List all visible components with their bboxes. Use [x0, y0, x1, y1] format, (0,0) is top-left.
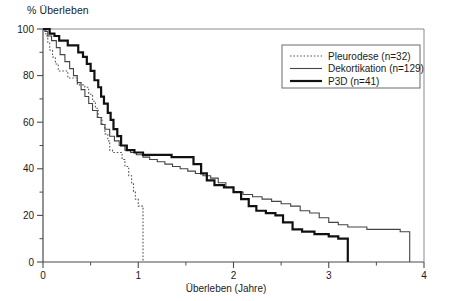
y-tick-label: 100: [17, 24, 34, 35]
y-tick-label: 0: [28, 257, 34, 268]
y-tick-label: 40: [23, 163, 35, 174]
legend-label-1: Dekortikation (n=129): [328, 63, 424, 74]
x-tick-label: 0: [40, 270, 46, 281]
y-axis-ticks: 020406080100: [17, 24, 43, 268]
x-tick-label: 4: [421, 270, 427, 281]
series-line-0: [43, 29, 143, 262]
y-tick-label: 80: [23, 70, 35, 81]
x-tick-label: 2: [231, 270, 237, 281]
x-tick-label: 3: [326, 270, 332, 281]
y-tick-label: 60: [23, 117, 35, 128]
y-tick-label: 20: [23, 210, 35, 221]
legend-label-2: P3D (n=41): [328, 76, 379, 87]
x-axis-ticks: 01234: [40, 262, 427, 281]
x-tick-label: 1: [135, 270, 141, 281]
survival-chart: 020406080100 01234 Pleurodese (n=32)Deko…: [0, 0, 452, 301]
chart-legend: Pleurodese (n=32)Dekortikation (n=129)P3…: [282, 45, 424, 88]
legend-label-0: Pleurodese (n=32): [328, 51, 411, 62]
